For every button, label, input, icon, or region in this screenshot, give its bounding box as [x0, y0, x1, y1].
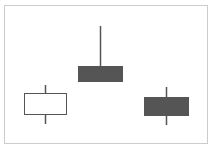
candle-body-bearish — [79, 67, 123, 82]
candle-body-bearish — [145, 98, 189, 116]
candle-body-bullish — [25, 94, 67, 115]
candlestick-chart — [0, 0, 210, 148]
